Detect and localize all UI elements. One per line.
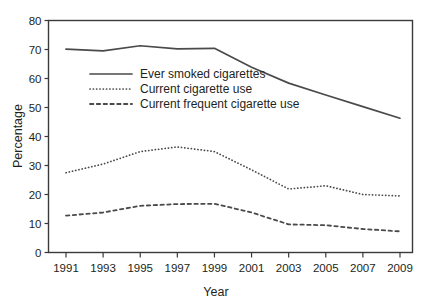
- x-tick-label: 1993: [90, 262, 116, 274]
- x-tick-label: 1999: [202, 262, 228, 274]
- y-tick-label: 0: [35, 247, 41, 259]
- y-tick-label: 60: [29, 73, 42, 85]
- line-chart: 01020304050607080 1991199319951997199920…: [0, 0, 429, 305]
- y-axis-title: Percentage: [11, 104, 25, 168]
- x-tick-label: 1995: [127, 262, 153, 274]
- legend-label: Current cigarette use: [140, 82, 252, 96]
- x-tick-label: 1991: [53, 262, 79, 274]
- y-tick-label: 50: [29, 102, 42, 114]
- y-tick-label: 40: [29, 131, 42, 143]
- y-tick-label: 10: [29, 218, 42, 230]
- x-tick-label: 2007: [350, 262, 376, 274]
- y-tick-label: 20: [29, 189, 42, 201]
- chart-container: 01020304050607080 1991199319951997199920…: [0, 0, 429, 305]
- y-tick-label: 30: [29, 160, 42, 172]
- x-tick-label: 1997: [165, 262, 191, 274]
- chart-background: [0, 0, 429, 305]
- x-tick-label: 2003: [276, 262, 302, 274]
- y-tick-label: 70: [29, 44, 42, 56]
- x-tick-label: 2005: [313, 262, 339, 274]
- x-axis-title: Year: [203, 285, 228, 299]
- y-tick-label: 80: [29, 15, 42, 27]
- legend-label: Current frequent cigarette use: [140, 97, 300, 111]
- x-tick-label: 2009: [387, 262, 413, 274]
- x-tick-label: 2001: [239, 262, 265, 274]
- legend-label: Ever smoked cigarettes: [140, 67, 265, 81]
